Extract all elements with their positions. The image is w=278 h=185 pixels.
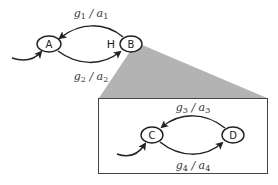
state-C[interactable]: C bbox=[141, 127, 163, 143]
state-B-label: B bbox=[128, 39, 135, 50]
zoom-wedge bbox=[99, 44, 267, 98]
transition-label-g3-a3: g3 / a3 bbox=[176, 101, 211, 115]
state-C-label: C bbox=[149, 130, 156, 141]
transition-A-to-B[interactable] bbox=[58, 51, 120, 62]
transition-label-g4-a4: g4 / a4 bbox=[176, 159, 211, 173]
state-A-label: A bbox=[46, 39, 53, 50]
diagram-svg: A B H g1 / a1 g2 / a2 C D g3 / a3 g4 / a… bbox=[0, 0, 278, 185]
state-D-label: D bbox=[229, 130, 237, 141]
transition-B-to-A[interactable] bbox=[60, 26, 123, 38]
state-A[interactable]: A bbox=[37, 36, 61, 52]
state-D[interactable]: D bbox=[222, 127, 244, 143]
transition-label-g1-a1: g1 / a1 bbox=[74, 7, 109, 21]
history-marker: H bbox=[107, 38, 115, 51]
state-B[interactable]: B bbox=[120, 36, 142, 52]
transition-label-g2-a2: g2 / a2 bbox=[74, 70, 109, 84]
statechart-diagram: A B H g1 / a1 g2 / a2 C D g3 / a3 g4 / a… bbox=[0, 0, 278, 185]
initial-transition-A bbox=[12, 52, 41, 60]
